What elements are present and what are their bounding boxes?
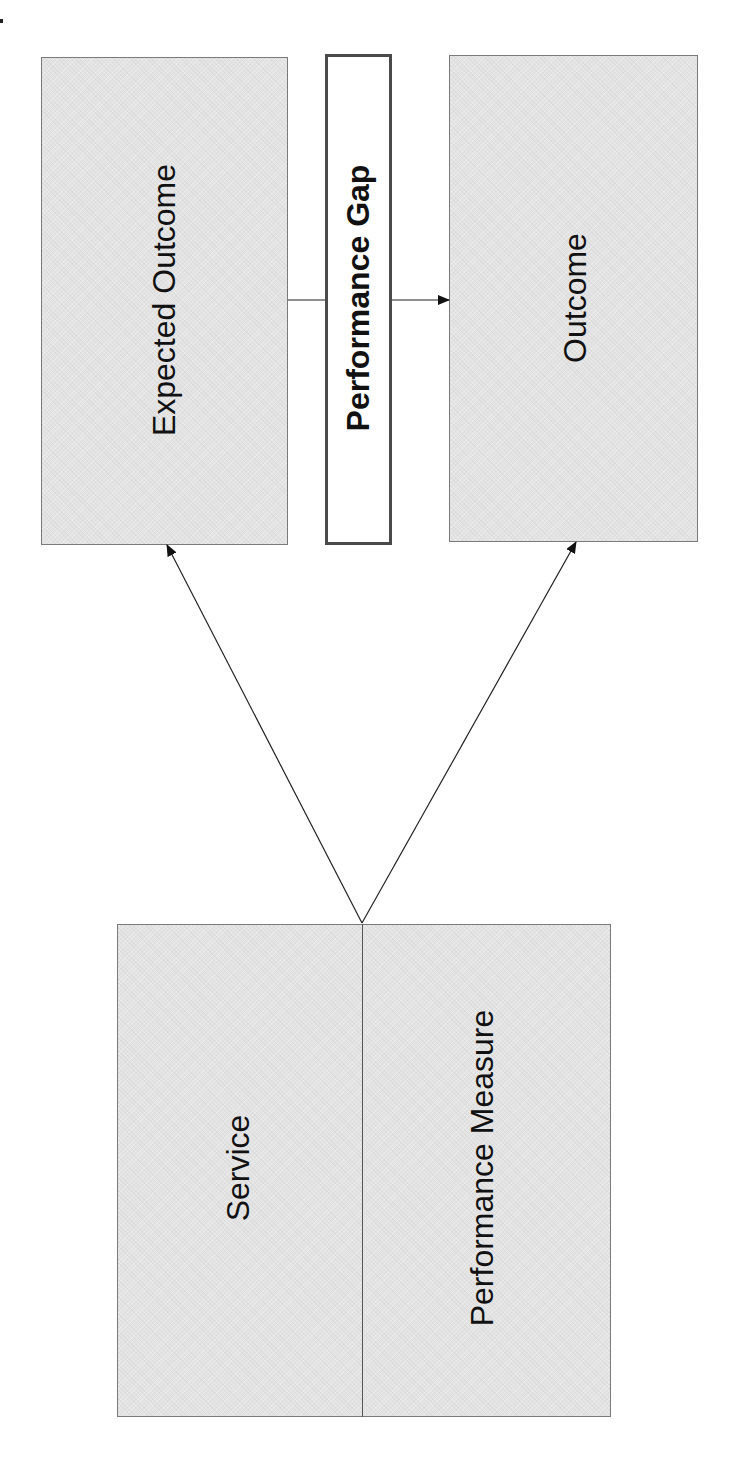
service-to-outcome-arrow (362, 542, 576, 923)
connector-layer (0, 0, 731, 1464)
service-to-expected-arrow (167, 545, 362, 923)
diagram-canvas: Expected Outcome Performance Gap Outcome… (0, 0, 731, 1464)
